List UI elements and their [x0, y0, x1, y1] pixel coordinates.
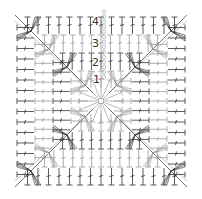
crochet-chart — [0, 0, 202, 199]
round-label-3: 3 — [92, 38, 99, 49]
round-label-2: 2 — [92, 57, 99, 68]
round-label-1: 1 — [93, 74, 100, 85]
round-label-4: 4 — [92, 16, 99, 27]
